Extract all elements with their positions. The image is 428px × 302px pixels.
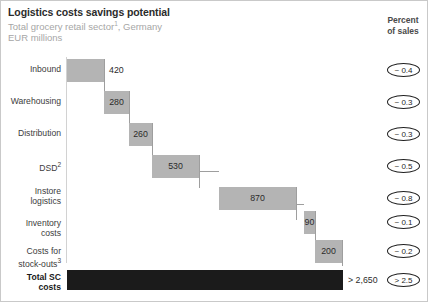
row-label-inventory-costs-line1: Inventory: [0, 218, 61, 228]
percent-bubble-warehousing: ~ 0.3: [387, 95, 420, 109]
row-label-dsd-line1: DSD: [39, 163, 57, 173]
row-label-stock-outs-line2: stock-outs3: [0, 256, 61, 269]
row-label-inventory-costs-line2: costs: [0, 228, 61, 238]
connector-stock-outs: [342, 240, 343, 266]
percent-header-line-2: of sales: [379, 26, 427, 37]
bar-value-total-sc-costs: > 2,650: [348, 275, 378, 285]
row-label-distribution: Distribution: [0, 128, 61, 138]
row-label-total-line2: costs: [0, 282, 61, 292]
percent-bubble-total-sc-costs: > 2.5: [387, 273, 420, 287]
row-label-inventory-costs: Inventory costs: [0, 218, 61, 238]
page-title: Logistics costs savings potential: [8, 6, 170, 18]
bar-value-inbound: 420: [109, 59, 149, 82]
chart-subtitle-sector: Total grocery retail sector1, Germany: [8, 20, 162, 32]
connector-warehousing: [129, 91, 130, 124]
value-axis-line: [66, 57, 67, 263]
row-label-instore-logistics: Instore logistics: [0, 186, 61, 206]
row-label-distribution-line1: Distribution: [18, 128, 61, 138]
percent-bubble-dsd: ~ 0.5: [387, 159, 420, 173]
row-label-warehousing: Warehousing: [0, 96, 61, 106]
bar-value-distribution: 260: [129, 123, 152, 146]
row-label-stock-outs-line1: Costs for: [0, 246, 61, 256]
chart-page: Logistics costs savings potential Total …: [0, 0, 428, 302]
row-label-inbound-line1: Inbound: [30, 64, 61, 74]
chart-units-label: EUR millions: [8, 32, 62, 43]
bar-value-instore-logistics: 870: [219, 187, 296, 210]
row-label-inbound: Inbound: [0, 64, 61, 74]
row-label-total-sc-costs: Total SC costs: [0, 272, 61, 292]
row-label-dsd: DSD2: [0, 160, 61, 173]
bar-value-stock-outs: 200: [315, 240, 342, 263]
percent-bubble-distribution: ~ 0.3: [387, 127, 420, 141]
connector-inventory-costs: [315, 211, 316, 243]
bar-total-sc-costs: [67, 270, 343, 290]
footnote-marker-3: 3: [57, 257, 61, 264]
bar-value-warehousing: 280: [104, 91, 129, 114]
percent-bubble-inventory-costs: ~ 0.1: [387, 215, 420, 229]
row-label-instore-logistics-line1: Instore: [0, 186, 61, 196]
chart-subtitle-sector-text: Total grocery retail sector: [8, 21, 114, 32]
row-label-stock-outs-line2-text: stock-outs: [18, 259, 57, 269]
connector-inbound: [104, 59, 105, 92]
connector-distribution: [152, 123, 153, 156]
percent-of-sales-header: Percent of sales: [379, 15, 427, 37]
connector-instore-bridge: [199, 171, 219, 172]
row-label-total-line1: Total SC: [0, 272, 61, 282]
row-label-instore-logistics-line2: logistics: [0, 196, 61, 206]
footnote-marker-2: 2: [57, 161, 61, 168]
row-label-stock-outs: Costs for stock-outs3: [0, 246, 61, 269]
percent-bubble-instore-logistics: ~ 0.8: [387, 191, 420, 205]
percent-header-line-1: Percent: [379, 15, 427, 26]
chart-subtitle-sector-tail: , Germany: [118, 21, 162, 32]
percent-bubble-inbound: ~ 0.4: [387, 63, 420, 77]
percent-bubble-stock-outs: ~ 0.2: [387, 244, 420, 258]
bar-value-dsd: 530: [152, 155, 199, 178]
bar-inbound: [67, 59, 104, 82]
connector-inventory-bridge: [296, 204, 304, 205]
row-label-warehousing-line1: Warehousing: [11, 96, 61, 106]
